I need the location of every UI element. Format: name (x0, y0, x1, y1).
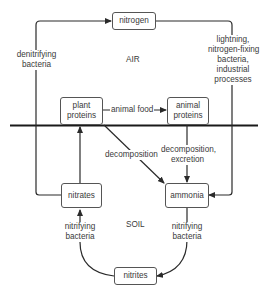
edge-label-decomposition: decomposition (104, 150, 159, 160)
edge-label-nitrifying-right-line1: nitrifying (166, 222, 208, 232)
nitrites-to-nitrates-arrow (80, 210, 114, 276)
node-nitrogen: nitrogen (112, 12, 156, 30)
region-air: AIR (126, 55, 140, 65)
edge-label-nitrifying-right: nitrifying bacteria (166, 222, 208, 242)
ammonia-to-nitrites-arrow (157, 208, 187, 276)
region-soil: SOIL (126, 220, 145, 230)
edge-label-denitrifying-line2: bacteria (14, 60, 59, 70)
edge-label-nitrifying-left-line1: nitrifying (59, 222, 101, 232)
edge-label-fixation-line1: lightning, (208, 35, 258, 45)
edge-label-fixation-line3: bacteria, (208, 55, 258, 65)
node-plant-proteins-line1: plant (73, 101, 91, 111)
edge-label-fixation-line5: processes (208, 75, 258, 85)
edge-label-decomposition-excretion-line1: decomposition, (161, 145, 214, 155)
node-plant-proteins-line2: proteins (67, 111, 96, 121)
node-animal-proteins-line2: proteins (173, 111, 202, 121)
node-nitrites: nitrites (114, 267, 157, 285)
edge-label-decomposition-excretion-line2: excretion (161, 155, 214, 165)
edge-label-denitrifying-line1: denitrifying (14, 50, 59, 60)
node-animal-proteins-line1: animal (176, 101, 200, 111)
node-nitrates: nitrates (61, 183, 102, 208)
edge-label-fixation: lightning, nitrogen-fixing bacteria, ind… (208, 35, 258, 85)
edge-label-fixation-line4: industrial (208, 65, 258, 75)
node-nitrogen-label: nitrogen (119, 16, 149, 26)
node-ammonia-label: ammonia (170, 191, 204, 201)
edge-label-animal-food: animal food (110, 105, 154, 115)
edge-label-fixation-line2: nitrogen-fixing (208, 45, 258, 55)
edge-label-nitrifying-right-line2: bacteria (166, 232, 208, 242)
node-ammonia: ammonia (165, 183, 209, 208)
edge-label-denitrifying: denitrifying bacteria (14, 50, 59, 70)
edge-label-decomposition-excretion: decomposition, excretion (161, 145, 214, 165)
edge-label-nitrifying-left-line2: bacteria (59, 232, 101, 242)
node-animal-proteins: animal proteins (167, 97, 209, 125)
node-plant-proteins: plant proteins (60, 97, 103, 125)
edge-label-nitrifying-left: nitrifying bacteria (59, 222, 101, 242)
node-nitrates-label: nitrates (68, 191, 95, 201)
node-nitrites-label: nitrites (123, 271, 147, 281)
